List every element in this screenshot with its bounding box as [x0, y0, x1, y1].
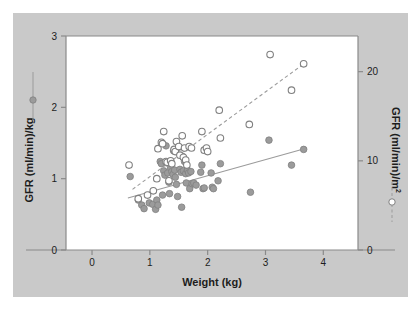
x-tick-label: 1 [147, 257, 153, 268]
data-point-open-circle [126, 162, 133, 169]
data-point-open-circle [150, 187, 157, 194]
x-tick-label: 0 [89, 257, 95, 268]
data-point-open-circle [153, 175, 160, 182]
scatter-chart: 01230102001234Weight (kg)GFR (ml/min)/kg… [0, 0, 420, 312]
data-point-open-circle [179, 133, 186, 140]
data-point-filled-circle [300, 146, 307, 153]
data-point-filled-circle [127, 173, 134, 180]
data-point-open-circle [160, 128, 167, 135]
y-axis-label-left: GFR (ml/min)/kg [23, 118, 35, 203]
plot-area-background [66, 36, 358, 250]
data-point-filled-circle [266, 137, 273, 144]
data-point-filled-circle [210, 185, 217, 192]
data-point-filled-circle [172, 174, 179, 181]
data-point-open-circle [300, 61, 307, 68]
data-point-filled-circle [174, 193, 181, 200]
data-point-filled-circle [215, 178, 222, 185]
data-point-open-circle [288, 87, 295, 94]
data-point-filled-circle [217, 160, 224, 167]
x-axis-label: Weight (kg) [182, 276, 242, 288]
data-point-filled-circle [247, 189, 254, 196]
y-tick-label-left: 0 [51, 245, 57, 256]
data-point-filled-circle [199, 162, 206, 169]
data-point-filled-circle [288, 162, 295, 169]
data-point-open-circle [169, 160, 176, 167]
y-axis-label-right-text: GFR (ml/min)/m2 [390, 107, 402, 193]
legend-marker-filled-circle [30, 97, 36, 103]
data-point-filled-circle [141, 205, 148, 212]
data-point-filled-circle [208, 170, 215, 177]
data-point-open-circle [184, 162, 191, 169]
data-point-filled-circle [193, 182, 200, 189]
data-point-filled-circle [178, 204, 185, 211]
data-point-filled-circle [166, 190, 173, 197]
y-tick-label-right: 10 [367, 155, 379, 166]
data-point-open-circle [216, 107, 223, 114]
y-axis-label-right: GFR (ml/min)/m2 [390, 107, 402, 193]
data-point-open-circle [188, 145, 195, 152]
data-point-filled-circle [159, 192, 166, 199]
x-tick-label: 4 [321, 257, 327, 268]
data-point-filled-circle [173, 181, 180, 188]
data-point-open-circle [166, 178, 173, 185]
x-tick-label: 2 [205, 257, 211, 268]
y-tick-label-right: 20 [367, 66, 379, 77]
chart-canvas: 01230102001234Weight (kg)GFR (ml/min)/kg… [0, 0, 420, 312]
figure-root: 01230102001234Weight (kg)GFR (ml/min)/kg… [0, 0, 420, 312]
data-point-open-circle [204, 148, 211, 155]
data-point-open-circle [246, 121, 253, 128]
y-tick-label-right: 0 [367, 245, 373, 256]
data-point-open-circle [159, 140, 166, 147]
data-point-filled-circle [197, 169, 204, 176]
data-point-open-circle [199, 128, 206, 135]
y-tick-label-left: 1 [51, 173, 57, 184]
y-axis-label-right-main: GFR (ml/min)/m [390, 107, 402, 189]
data-point-filled-circle [155, 202, 162, 209]
data-point-open-circle [144, 192, 151, 199]
data-point-filled-circle [188, 168, 195, 175]
y-axis-label-right-sup: 2 [395, 189, 402, 193]
data-point-open-circle [135, 195, 142, 202]
legend-marker-open-circle [389, 199, 395, 205]
x-tick-label: 3 [263, 257, 269, 268]
y-tick-label-left: 2 [51, 102, 57, 113]
data-point-filled-circle [201, 185, 208, 192]
y-tick-label-left: 3 [51, 31, 57, 42]
data-point-open-circle [267, 51, 274, 58]
data-point-open-circle [217, 135, 224, 142]
